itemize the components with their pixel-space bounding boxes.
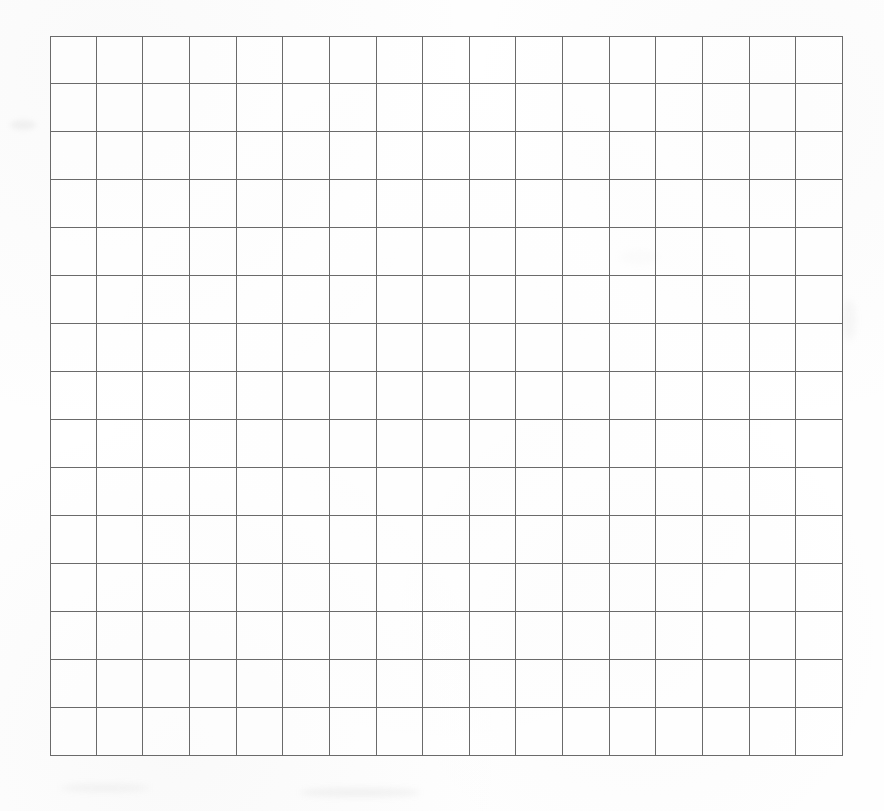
grid-cell[interactable] [796,132,843,180]
grid-cell[interactable] [143,516,190,564]
grid-cell[interactable] [97,468,144,516]
grid-cell[interactable] [97,132,144,180]
grid-cell[interactable] [423,132,470,180]
grid-cell[interactable] [703,612,750,660]
grid-cell[interactable] [283,516,330,564]
grid-cell[interactable] [703,228,750,276]
grid-cell[interactable] [423,564,470,612]
grid-cell[interactable] [190,132,237,180]
grid-cell[interactable] [796,564,843,612]
grid-cell[interactable] [563,84,610,132]
grid-cell[interactable] [750,564,797,612]
grid-cell[interactable] [330,36,377,84]
grid-cell[interactable] [143,660,190,708]
grid-cell[interactable] [423,708,470,756]
grid-cell[interactable] [703,180,750,228]
grid-cell[interactable] [237,564,284,612]
grid-cell[interactable] [703,132,750,180]
grid-cell[interactable] [610,180,657,228]
grid-cell[interactable] [703,660,750,708]
grid-cell[interactable] [750,612,797,660]
grid-cell[interactable] [50,324,97,372]
grid-cell[interactable] [97,84,144,132]
grid-cell[interactable] [656,516,703,564]
grid-cell[interactable] [423,516,470,564]
grid-cell[interactable] [563,612,610,660]
grid-cell[interactable] [750,372,797,420]
grid-cell[interactable] [97,180,144,228]
grid-cell[interactable] [97,420,144,468]
grid-cell[interactable] [283,372,330,420]
grid-cell[interactable] [656,660,703,708]
grid-cell[interactable] [610,84,657,132]
grid-cell[interactable] [50,132,97,180]
grid-cell[interactable] [97,36,144,84]
grid-cell[interactable] [563,324,610,372]
grid-cell[interactable] [143,36,190,84]
grid-cell[interactable] [470,132,517,180]
grid-cell[interactable] [796,660,843,708]
grid-cell[interactable] [190,180,237,228]
grid-cell[interactable] [656,276,703,324]
grid-cell[interactable] [423,324,470,372]
grid-cell[interactable] [423,36,470,84]
grid-cell[interactable] [563,660,610,708]
grid-cell[interactable] [656,36,703,84]
grid-cell[interactable] [470,708,517,756]
grid-cell[interactable] [50,228,97,276]
grid-cell[interactable] [190,468,237,516]
grid-cell[interactable] [377,468,424,516]
grid-cell[interactable] [516,708,563,756]
grid-cell[interactable] [796,420,843,468]
grid-cell[interactable] [143,132,190,180]
grid-cell[interactable] [516,324,563,372]
grid-cell[interactable] [470,324,517,372]
grid-cell[interactable] [423,84,470,132]
grid-cell[interactable] [143,468,190,516]
grid-cell[interactable] [377,36,424,84]
grid-cell[interactable] [377,564,424,612]
grid-cell[interactable] [50,84,97,132]
grid-cell[interactable] [330,372,377,420]
grid-cell[interactable] [330,180,377,228]
grid-cell[interactable] [237,228,284,276]
grid-cell[interactable] [470,612,517,660]
grid-cell[interactable] [610,468,657,516]
grid-cell[interactable] [237,324,284,372]
grid-cell[interactable] [516,468,563,516]
grid-cell[interactable] [610,612,657,660]
grid-cell[interactable] [237,132,284,180]
grid-cell[interactable] [703,372,750,420]
grid-cell[interactable] [190,564,237,612]
grid-cell[interactable] [237,84,284,132]
grid-cell[interactable] [796,276,843,324]
grid-cell[interactable] [237,420,284,468]
grid-cell[interactable] [796,372,843,420]
grid-cell[interactable] [563,228,610,276]
grid-cell[interactable] [330,660,377,708]
grid-cell[interactable] [656,708,703,756]
grid-cell[interactable] [237,372,284,420]
grid-cell[interactable] [750,660,797,708]
grid-cell[interactable] [470,228,517,276]
grid-cell[interactable] [330,564,377,612]
grid-cell[interactable] [190,420,237,468]
grid-cell[interactable] [330,132,377,180]
grid-cell[interactable] [237,180,284,228]
grid-cell[interactable] [330,276,377,324]
grid-cell[interactable] [516,564,563,612]
grid-cell[interactable] [563,372,610,420]
grid-cell[interactable] [423,276,470,324]
grid-cell[interactable] [470,660,517,708]
grid-cell[interactable] [610,564,657,612]
grid-cell[interactable] [516,660,563,708]
grid-cell[interactable] [283,612,330,660]
grid-cell[interactable] [796,324,843,372]
grid-table[interactable] [50,36,843,756]
grid-cell[interactable] [237,612,284,660]
grid-cell[interactable] [656,228,703,276]
grid-cell[interactable] [423,420,470,468]
grid-cell[interactable] [143,372,190,420]
grid-cell[interactable] [516,228,563,276]
grid-cell[interactable] [796,708,843,756]
